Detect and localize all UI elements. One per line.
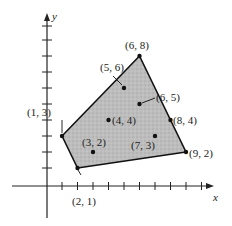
label-4-4: (4, 4)	[112, 114, 136, 127]
x-axis-label: x	[212, 191, 218, 203]
label-8-4: (8, 4)	[173, 114, 197, 127]
point-6-8	[137, 54, 141, 58]
label-6-5: (6, 5)	[156, 91, 180, 104]
x-axis: x	[12, 182, 218, 203]
point-2-1	[75, 166, 79, 170]
label-9-2: (9, 2)	[189, 147, 213, 160]
point-4-4	[106, 118, 110, 122]
label-1-3: (1, 3)	[27, 106, 51, 119]
point-7-3	[153, 134, 157, 138]
y-axis-label: y	[51, 10, 57, 22]
label-6-8: (6, 8)	[125, 39, 149, 52]
coordinate-plane-diagram: x y	[0, 0, 232, 226]
point-5-6	[122, 86, 126, 90]
feasible-region	[62, 56, 186, 168]
point-6-5	[137, 102, 141, 106]
point-9-2	[184, 150, 188, 154]
point-1-3	[60, 134, 64, 138]
label-3-2: (3, 2)	[82, 136, 106, 149]
label-7-3: (7, 3)	[131, 139, 155, 152]
point-3-2	[91, 150, 95, 154]
label-2-1: (2, 1)	[72, 195, 96, 208]
label-5-6: (5, 6)	[100, 61, 124, 74]
